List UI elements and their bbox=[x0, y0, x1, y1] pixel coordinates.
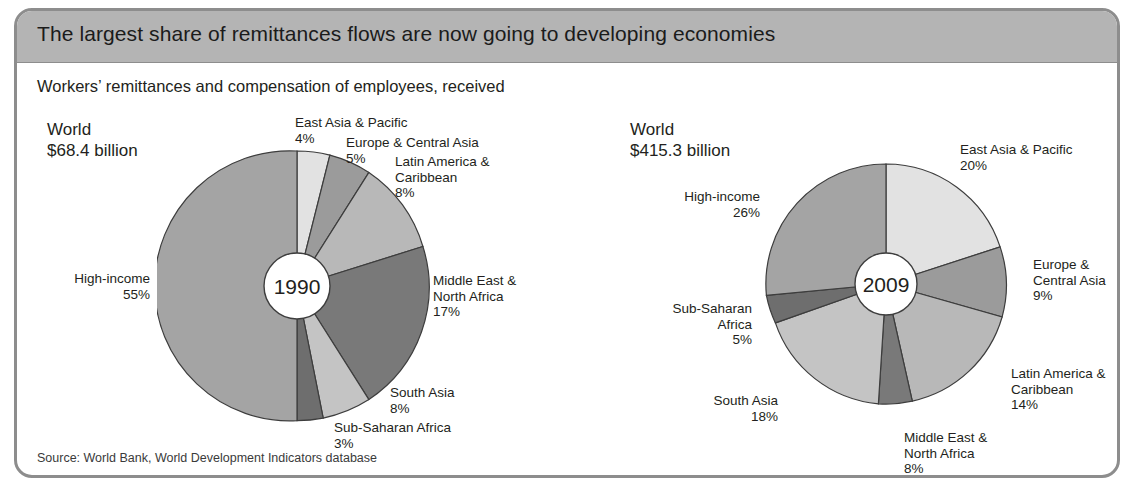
label-name-line1: Sub-Saharan bbox=[672, 301, 752, 316]
label-pct: 8% bbox=[395, 185, 490, 201]
figure-frame: The largest share of remittances flows a… bbox=[14, 8, 1120, 478]
label-latin-america-caribbean-2009: Latin America & Caribbean 14% bbox=[1011, 366, 1106, 413]
pie-year-2009: 2009 bbox=[863, 273, 910, 296]
label-sub-saharan-africa-2009: Sub-Saharan Africa 5% bbox=[642, 301, 752, 348]
label-name: East Asia & Pacific bbox=[295, 115, 408, 130]
label-latin-america-caribbean-1990: Latin America & Caribbean 8% bbox=[395, 154, 490, 201]
label-pct: 20% bbox=[960, 158, 1073, 174]
label-name-line1: Europe & bbox=[1033, 257, 1089, 272]
pie-panel-2009: World $415.3 billion bbox=[570, 11, 1120, 478]
label-east-asia-pacific-2009: East Asia & Pacific 20% bbox=[960, 142, 1073, 173]
label-pct: 8% bbox=[904, 461, 987, 477]
label-name-line2: North Africa bbox=[433, 289, 516, 305]
pie-panel-1990: World $68.4 billion bbox=[17, 11, 570, 478]
label-pct: 55% bbox=[35, 287, 150, 303]
label-name: High-income bbox=[74, 271, 150, 286]
label-pct: 3% bbox=[334, 436, 451, 452]
label-name-line2: Caribbean bbox=[1011, 382, 1106, 398]
label-name: South Asia bbox=[390, 385, 455, 400]
label-name-line2: North Africa bbox=[904, 446, 987, 462]
label-name: East Asia & Pacific bbox=[960, 142, 1073, 157]
world-label-1990: World bbox=[47, 120, 91, 139]
label-south-asia-1990: South Asia 8% bbox=[390, 385, 455, 416]
label-high-income-1990: High-income 55% bbox=[35, 271, 150, 302]
world-amount-1990: $68.4 billion bbox=[47, 140, 138, 161]
label-south-asia-2009: South Asia 18% bbox=[670, 393, 778, 424]
pie-year-1990: 1990 bbox=[274, 275, 321, 298]
label-name-line1: Latin America & bbox=[1011, 366, 1106, 381]
source-note: Source: World Bank, World Development In… bbox=[37, 451, 377, 465]
label-pct: 26% bbox=[650, 205, 760, 221]
label-sub-saharan-africa-1990: Sub-Saharan Africa 3% bbox=[334, 420, 451, 451]
pie-svg-2009: 2009 bbox=[761, 159, 1011, 409]
label-pct: 8% bbox=[390, 401, 455, 417]
label-pct: 14% bbox=[1011, 397, 1106, 413]
label-name-line2: Caribbean bbox=[395, 170, 490, 186]
label-name-line1: Latin America & bbox=[395, 154, 490, 169]
label-name-line1: Middle East & bbox=[433, 273, 516, 288]
label-pct: 17% bbox=[433, 304, 516, 320]
label-europe-central-asia-2009: Europe & Central Asia 9% bbox=[1033, 257, 1106, 304]
pie-chart-2009: 2009 bbox=[761, 159, 1011, 409]
world-total-2009: World $415.3 billion bbox=[630, 119, 730, 161]
label-middle-east-north-africa-1990: Middle East & North Africa 17% bbox=[433, 273, 516, 320]
world-label-2009: World bbox=[630, 120, 674, 139]
label-high-income-2009: High-income 26% bbox=[650, 189, 760, 220]
world-total-1990: World $68.4 billion bbox=[47, 119, 138, 161]
label-name-line2: Central Asia bbox=[1033, 273, 1106, 289]
label-middle-east-north-africa-2009: Middle East & North Africa 8% bbox=[904, 430, 987, 477]
label-name-line2: Africa bbox=[642, 317, 752, 333]
label-name-line1: Middle East & bbox=[904, 430, 987, 445]
label-name: South Asia bbox=[713, 393, 778, 408]
label-name: High-income bbox=[684, 189, 760, 204]
label-pct: 5% bbox=[642, 332, 752, 348]
label-name: Sub-Saharan Africa bbox=[334, 420, 451, 435]
label-pct: 9% bbox=[1033, 288, 1106, 304]
world-amount-2009: $415.3 billion bbox=[630, 140, 730, 161]
label-pct: 18% bbox=[670, 409, 778, 425]
label-name: Europe & Central Asia bbox=[346, 135, 479, 150]
